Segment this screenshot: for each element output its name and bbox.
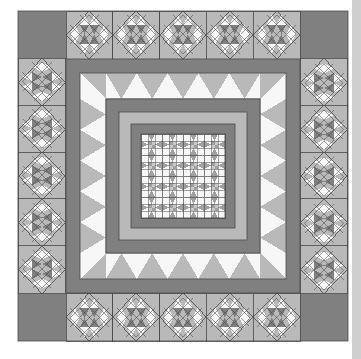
shoofly-corner-square	[141, 169, 148, 176]
shoofly-center-fourpatch	[173, 166, 177, 170]
center-block-shoofly	[204, 197, 225, 218]
dark-sashing-3	[131, 124, 235, 134]
quilt-canvas	[0, 0, 361, 359]
shoofly-center-fourpatch	[148, 204, 152, 208]
shoofly-corner-square	[197, 190, 204, 197]
border-block-left	[19, 152, 66, 200]
border-block-bottom	[66, 293, 113, 341]
shoofly-corner-square	[176, 155, 183, 162]
shoofly-center-fourpatch	[152, 183, 156, 187]
shoofly-corner-square	[155, 148, 162, 155]
dark-sashing-2	[106, 240, 260, 253]
shoofly-corner-square	[162, 134, 169, 141]
shoofly-corner-square	[155, 211, 162, 218]
shoofly-corner-square	[141, 155, 148, 162]
corner-plain-square	[300, 293, 348, 341]
shoofly-corner-square	[162, 211, 169, 218]
dark-sashing-3	[131, 218, 235, 228]
shoofly-center-fourpatch	[169, 141, 173, 145]
border-block-top	[66, 11, 113, 59]
shoofly-center-fourpatch	[152, 187, 156, 191]
center-block-shoofly	[162, 134, 183, 155]
shoofly-center-fourpatch	[169, 187, 173, 191]
shoofly-corner-square	[162, 197, 169, 204]
shoofly-center-fourpatch	[194, 208, 198, 212]
shoofly-center-fourpatch	[211, 141, 215, 145]
shoofly-corner-square	[176, 148, 183, 155]
center-block-shoofly	[141, 197, 162, 218]
dark-sashing-2	[247, 99, 260, 253]
shoofly-center-fourpatch	[211, 183, 215, 187]
border-block-right	[301, 58, 348, 106]
shoofly-center-fourpatch	[190, 141, 194, 145]
shoofly-corner-square	[218, 211, 225, 218]
shoofly-corner-square	[204, 190, 211, 197]
shoofly-corner-square	[155, 190, 162, 197]
shoofly-center-fourpatch	[169, 183, 173, 187]
shoofly-corner-square	[176, 197, 183, 204]
shoofly-corner-square	[218, 190, 225, 197]
shoofly-center-fourpatch	[194, 145, 198, 149]
shoofly-center-fourpatch	[173, 187, 177, 191]
border-block-left	[19, 246, 66, 294]
shoofly-center-fourpatch	[211, 204, 215, 208]
shoofly-corner-square	[218, 176, 225, 183]
border-block-top	[253, 11, 300, 59]
border-block-right	[301, 246, 348, 294]
light-ring	[119, 112, 247, 124]
shoofly-center-fourpatch	[215, 204, 219, 208]
shoofly-center-fourpatch	[173, 183, 177, 187]
shoofly-center-fourpatch	[152, 166, 156, 170]
shoofly-center-fourpatch	[215, 183, 219, 187]
shoofly-center-fourpatch	[215, 166, 219, 170]
center-block-shoofly	[162, 176, 183, 197]
shoofly-corner-square	[155, 155, 162, 162]
shoofly-corner-square	[204, 197, 211, 204]
dark-sashing-1	[66, 59, 80, 293]
shoofly-center-fourpatch	[152, 141, 156, 145]
shoofly-corner-square	[183, 134, 190, 141]
quilt-body	[18, 11, 348, 341]
border-block-right	[301, 152, 348, 200]
shoofly-corner-square	[141, 190, 148, 197]
center-block-shoofly	[162, 197, 183, 218]
shoofly-center-fourpatch	[194, 162, 198, 166]
border-block-bottom	[160, 293, 207, 341]
shoofly-center-fourpatch	[194, 141, 198, 145]
shoofly-center-fourpatch	[169, 208, 173, 212]
shoofly-center-fourpatch	[173, 141, 177, 145]
shoofly-corner-square	[141, 134, 148, 141]
shoofly-center-fourpatch	[190, 187, 194, 191]
shoofly-center-fourpatch	[148, 166, 152, 170]
shoofly-corner-square	[204, 148, 211, 155]
shoofly-corner-square	[141, 197, 148, 204]
shoofly-corner-square	[204, 211, 211, 218]
shoofly-corner-square	[204, 134, 211, 141]
shoofly-center-fourpatch	[215, 141, 219, 145]
shoofly-corner-square	[183, 190, 190, 197]
shoofly-corner-square	[183, 148, 190, 155]
light-ring	[119, 112, 131, 240]
shoofly-center-fourpatch	[169, 204, 173, 208]
center-block-shoofly	[183, 134, 204, 155]
shoofly-corner-square	[162, 190, 169, 197]
shoofly-corner-square	[218, 169, 225, 176]
shoofly-corner-square	[176, 176, 183, 183]
dark-sashing-1	[66, 59, 300, 73]
center-block-shoofly	[204, 155, 225, 176]
shoofly-corner-square	[204, 155, 211, 162]
light-ring	[119, 228, 247, 240]
shoofly-center-fourpatch	[173, 145, 177, 149]
shoofly-center-fourpatch	[190, 208, 194, 212]
shoofly-corner-square	[155, 169, 162, 176]
border-block-top	[113, 11, 160, 59]
shoofly-corner-square	[141, 176, 148, 183]
shoofly-corner-square	[197, 148, 204, 155]
shoofly-center-fourpatch	[211, 187, 215, 191]
shoofly-center-fourpatch	[148, 141, 152, 145]
border-block-left	[19, 105, 66, 153]
shoofly-center-fourpatch	[173, 204, 177, 208]
corner-plain-square	[18, 293, 66, 341]
border-block-bottom	[206, 293, 253, 341]
border-block-top	[160, 11, 207, 59]
